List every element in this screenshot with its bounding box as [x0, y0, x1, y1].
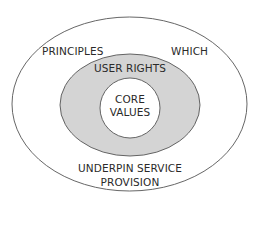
- label-underpin-service: UNDERPIN SERVICE: [70, 162, 190, 175]
- label-user-rights: USER RIGHTS: [90, 62, 170, 75]
- label-which: WHICH: [171, 45, 208, 58]
- label-principles: PRINCIPLES: [42, 45, 104, 58]
- label-provision: PROVISION: [70, 176, 190, 189]
- label-core: CORE: [100, 93, 160, 106]
- label-values: VALUES: [100, 106, 160, 119]
